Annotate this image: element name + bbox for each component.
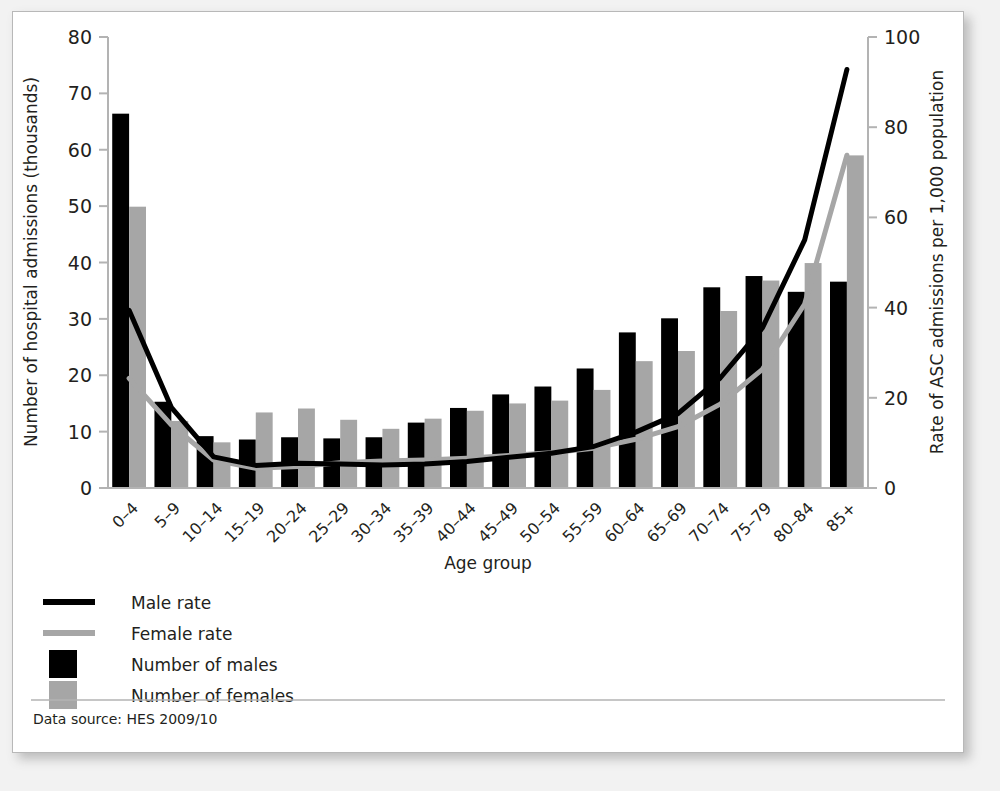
y-axis-right: 020406080100 Rate of ASC admissions per … [868,26,947,499]
x-tick-label: 5–9 [151,498,184,531]
x-tick-label: 45–49 [474,498,522,546]
x-axis-title: Age group [444,553,532,573]
legend-item: Male rate [43,593,211,613]
bar-male [534,387,551,488]
x-tick-label: 65–69 [643,498,691,546]
y-tick-label-right: 60 [884,206,908,228]
legend-swatch-marker [49,681,77,709]
bar-female [467,411,484,488]
x-tick-label: 20–24 [263,498,311,546]
bar-male [661,318,678,488]
y-axis-right-title: Rate of ASC admissions per 1,000 populat… [927,70,947,454]
x-tick-label: 25–29 [305,498,353,546]
x-tick-label: 80–84 [770,498,818,546]
female-rate-line [129,155,847,468]
bar-female [298,409,315,488]
legend-item: Female rate [43,624,232,644]
y-tick-label-right: 40 [884,297,908,319]
y-tick-label-left: 60 [68,139,92,161]
bar-female [509,403,526,488]
bars-group [112,114,864,488]
legend-swatch-marker [49,650,77,678]
legend-item: Number of females [49,681,294,709]
y-tick-label-left: 70 [68,82,92,104]
bar-female [256,412,273,488]
y-tick-label-left: 80 [68,26,92,48]
y-tick-label-right: 20 [884,387,908,409]
bar-male [619,332,636,488]
plot-area [112,70,864,489]
x-axis: 0–45–910–1415–1920–2425–2930–3435–3940–4… [108,488,868,573]
bar-female [594,390,611,488]
y-tick-label-right: 80 [884,116,908,138]
x-tick-label: 55–59 [559,498,607,546]
asc-admissions-chart: 01020304050607080 Number of hospital adm… [13,12,963,752]
x-tick-label: 30–34 [347,498,395,546]
page-background: 01020304050607080 Number of hospital adm… [0,0,1000,791]
x-tick-label: 40–44 [432,498,480,546]
bar-female [340,420,357,488]
y-axis-left: 01020304050607080 Number of hospital adm… [21,26,108,499]
y-tick-label-left: 40 [68,252,92,274]
x-tick-label: 50–54 [516,498,564,546]
legend-item-label: Number of males [131,655,278,675]
chart-panel: 01020304050607080 Number of hospital adm… [12,11,964,753]
legend-item-label: Male rate [131,593,211,613]
chart-legend: Male rateFemale rateNumber of malesNumbe… [43,593,294,709]
y-tick-label-left: 10 [68,421,92,443]
y-axis-left-title: Number of hospital admissions (thousands… [21,77,41,447]
x-tick-label: 60–64 [601,498,649,546]
data-source-note: Data source: HES 2009/10 [33,711,217,727]
x-tick-label: 75–79 [727,498,775,546]
bar-male [408,423,425,488]
male-rate-line [129,70,847,466]
bar-female [425,419,442,488]
y-tick-label-left: 0 [80,477,92,499]
bar-male [112,114,129,488]
x-tick-label: 85+ [822,498,859,535]
bar-male [830,282,847,488]
x-tick-label: 0–4 [108,498,141,531]
y-tick-label-left: 50 [68,195,92,217]
x-tick-label: 35–39 [390,498,438,546]
y-tick-label-right: 0 [884,477,896,499]
legend-item-label: Female rate [131,624,232,644]
y-tick-label-left: 30 [68,308,92,330]
bar-female [551,401,568,488]
legend-item: Number of males [49,650,278,678]
bar-male [577,368,594,488]
x-tick-label: 15–19 [221,498,269,546]
bar-male [450,408,467,488]
bar-female [847,155,864,488]
x-tick-label: 70–74 [685,498,733,546]
bar-male [492,394,509,488]
x-tick-label: 10–14 [179,498,227,546]
y-tick-label-right: 100 [884,26,920,48]
legend-item-label: Number of females [131,686,294,706]
y-tick-label-left: 20 [68,364,92,386]
